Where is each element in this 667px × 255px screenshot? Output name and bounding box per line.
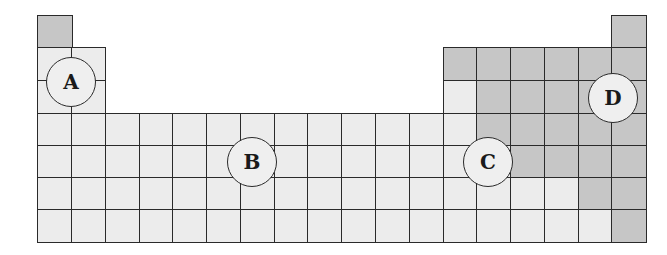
element-cell	[307, 145, 342, 179]
element-cell	[409, 145, 444, 179]
marker-b-label: B	[244, 150, 261, 174]
element-cell	[71, 145, 106, 179]
element-cell	[172, 145, 207, 179]
element-cell	[71, 209, 106, 243]
element-cell	[37, 145, 72, 179]
element-cell	[510, 209, 545, 243]
element-cell	[341, 145, 376, 179]
element-cell	[443, 209, 478, 243]
element-cell	[510, 113, 545, 147]
element-cell	[307, 113, 342, 147]
element-cell	[274, 113, 309, 147]
element-cell	[274, 145, 309, 179]
element-cell	[443, 47, 478, 82]
element-cell	[341, 113, 376, 147]
element-cell	[139, 209, 174, 243]
element-cell	[139, 113, 174, 147]
element-cell	[71, 177, 106, 211]
element-cell	[139, 145, 174, 179]
element-cell	[375, 113, 410, 147]
element-cell	[578, 177, 613, 211]
element-cell	[544, 145, 579, 179]
element-cell	[611, 145, 646, 179]
element-cell	[510, 47, 545, 82]
element-cell	[307, 177, 342, 211]
element-cell	[611, 177, 646, 211]
element-cell	[307, 209, 342, 243]
marker-a-label: A	[63, 70, 79, 94]
element-cell	[375, 177, 410, 211]
element-cell	[37, 15, 72, 49]
element-cell	[274, 209, 309, 243]
element-cell	[476, 80, 511, 115]
element-cell	[510, 177, 545, 211]
element-cell	[172, 113, 207, 147]
element-cell	[409, 209, 444, 243]
element-cell	[375, 209, 410, 243]
element-cell	[341, 209, 376, 243]
element-cell	[578, 209, 613, 243]
element-cell	[37, 209, 72, 243]
element-cell	[544, 113, 579, 147]
element-cell	[139, 177, 174, 211]
element-cell	[71, 113, 106, 147]
element-cell	[37, 113, 72, 147]
element-cell	[476, 47, 511, 82]
element-cell	[172, 177, 207, 211]
marker-b: B	[227, 137, 277, 187]
element-cell	[443, 80, 478, 115]
marker-a: A	[46, 57, 96, 107]
element-cell	[274, 177, 309, 211]
element-cell	[240, 209, 275, 243]
element-cell	[409, 113, 444, 147]
element-cell	[105, 113, 140, 147]
element-cell	[206, 177, 241, 211]
element-cell	[544, 177, 579, 211]
element-cell	[105, 209, 140, 243]
element-cell	[409, 177, 444, 211]
element-cell	[611, 209, 646, 243]
element-cell	[611, 15, 646, 49]
element-cell	[341, 177, 376, 211]
element-cell	[510, 80, 545, 115]
element-cell	[544, 47, 579, 82]
marker-d: D	[588, 73, 638, 123]
element-cell	[578, 145, 613, 179]
element-cell	[206, 209, 241, 243]
element-cell	[172, 209, 207, 243]
element-cell	[544, 209, 579, 243]
element-cell	[37, 177, 72, 211]
marker-d-label: D	[604, 86, 621, 110]
element-cell	[476, 209, 511, 243]
marker-c-label: C	[480, 150, 496, 174]
periodic-table	[0, 0, 667, 255]
element-cell	[544, 80, 579, 115]
element-cell	[105, 145, 140, 179]
element-cell	[105, 177, 140, 211]
element-cell	[375, 145, 410, 179]
element-cell	[510, 145, 545, 179]
marker-c: C	[463, 137, 513, 187]
